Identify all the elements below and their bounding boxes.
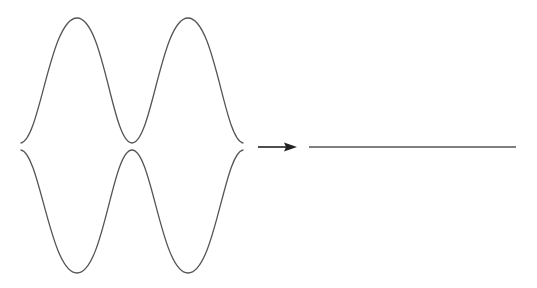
diagram-canvas: Two mirrored wave envelopes (upper and l…	[0, 0, 537, 288]
transform-arrow-icon	[258, 143, 297, 152]
lower-wave	[21, 150, 243, 273]
diagram-svg	[0, 0, 537, 288]
upper-wave	[21, 18, 243, 143]
